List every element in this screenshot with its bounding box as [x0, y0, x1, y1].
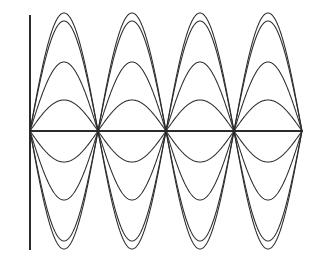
plot-canvas — [0, 0, 320, 262]
sine-family-plot-figure — [0, 0, 320, 262]
